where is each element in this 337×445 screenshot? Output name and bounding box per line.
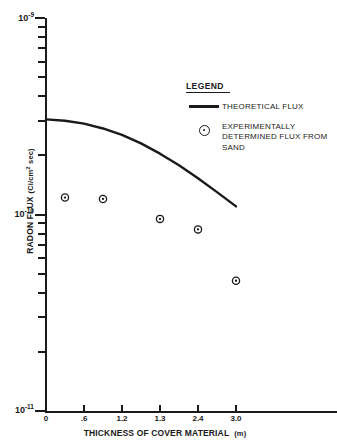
data-point-center-dot bbox=[102, 198, 104, 200]
legend-entry-theoretical: THEORETICAL FLUX bbox=[186, 102, 336, 113]
line-sample-icon bbox=[189, 105, 219, 108]
legend-entry-experimental-text: EXPERIMENTALLY DETERMINED FLUX FROM SAND bbox=[222, 122, 327, 154]
x-axis-title-text: THICKNESS OF COVER MATERIAL bbox=[84, 428, 230, 438]
data-point-center-dot bbox=[235, 280, 237, 282]
legend-line-2: DETERMINED FLUX FROM bbox=[222, 132, 327, 143]
legend-line-1: EXPERIMENTALLY bbox=[222, 122, 327, 133]
data-point-center-dot bbox=[197, 228, 199, 230]
x-axis-title: THICKNESS OF COVER MATERIAL(m) bbox=[45, 428, 285, 438]
y-axis-title-text: RADON FLUX bbox=[25, 196, 35, 253]
legend-entry-theoretical-text: THEORETICAL FLUX bbox=[222, 102, 304, 113]
experimental-data-markers bbox=[61, 194, 239, 284]
y-axis-unit: (Ci/cm2 sec) bbox=[26, 148, 35, 193]
legend-marker-key bbox=[186, 122, 222, 136]
legend-line-key bbox=[186, 102, 222, 108]
legend-line-1: THEORETICAL FLUX bbox=[222, 102, 304, 113]
y-axis-title: RADON FLUX(Ci/cm2 sec) bbox=[25, 111, 35, 291]
legend: LEGEND THEORETICAL FLUX EXPERIMENTALLY D… bbox=[186, 75, 336, 153]
radon-flux-chart: 10-9 10-10 10-11 0.61.21.32.43.0 THICKNE… bbox=[0, 0, 337, 445]
data-point-center-dot bbox=[64, 196, 66, 198]
circle-dot-marker-icon bbox=[199, 125, 210, 136]
legend-entry-experimental: EXPERIMENTALLY DETERMINED FLUX FROM SAND bbox=[186, 122, 336, 154]
legend-title: LEGEND bbox=[186, 81, 230, 93]
data-point-center-dot bbox=[159, 218, 161, 220]
plot-area bbox=[0, 0, 337, 445]
legend-line-3: SAND bbox=[222, 143, 327, 154]
x-axis-unit: (m) bbox=[234, 429, 246, 438]
